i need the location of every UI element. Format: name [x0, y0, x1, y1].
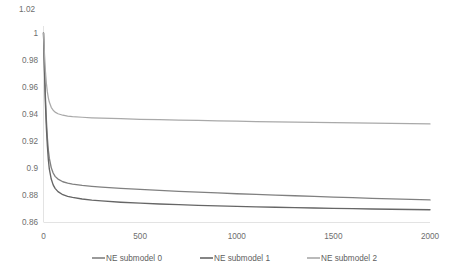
y-axis-tick-label: 0.88 [22, 191, 38, 200]
chart-container: 1.02 0.860.880.90.920.940.960.981 050010… [0, 0, 450, 278]
legend-label-1: NE submodel 1 [214, 254, 270, 263]
legend-label-0: NE submodel 0 [106, 254, 162, 263]
y-axis-tick-label: 0.86 [22, 218, 38, 227]
y-axis-tick-label: 0.98 [22, 56, 38, 65]
y-axis-tick-label: 0.92 [22, 137, 38, 146]
line-chart: 1.02 0.860.880.90.920.940.960.981 050010… [0, 0, 450, 278]
x-axis-tick-label: 1500 [324, 232, 343, 241]
x-axis-tick-label: 2000 [421, 232, 440, 241]
legend-label-2: NE submodel 2 [321, 254, 377, 263]
x-axis-tick-label: 1000 [228, 232, 247, 241]
y-axis-tick-label: 0.94 [22, 110, 38, 119]
y-axis-top-label: 1.02 [19, 5, 35, 14]
x-axis-tick-label: 500 [133, 232, 147, 241]
chart-background [0, 0, 450, 278]
y-axis-tick-label: 1 [33, 29, 38, 38]
x-axis-tick-label: 0 [41, 232, 46, 241]
y-axis-tick-label: 0.96 [22, 83, 38, 92]
chart-legend: NE submodel 0NE submodel 1NE submodel 2 [92, 254, 377, 263]
y-axis-tick-label: 0.9 [27, 164, 39, 173]
